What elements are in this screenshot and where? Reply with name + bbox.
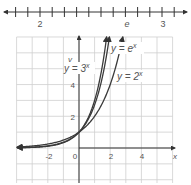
number-line: 2 e 3 [4,7,187,29]
x-tick-label-2: 2 [109,152,114,161]
x-tick-label-4: 4 [140,152,145,161]
x-axis-label: x [172,152,178,161]
y-tick-label-4: 4 [71,81,76,90]
number-line-label-3: 3 [160,19,165,29]
figure: 2 e 3 x y -2 0 2 4 2 4 y = ex y = 3x y =… [0,0,191,185]
y-tick-label-2: 2 [71,113,76,122]
curve-label-e: y = ex [110,42,137,54]
x-tick-label-neg2: -2 [45,152,53,161]
curve-label-3: y = 3x [63,62,90,74]
graph: x y -2 0 2 4 2 4 y = ex y = 3x y = 2x [17,36,178,183]
curve-3x [17,37,106,148]
number-line-label-e: e [124,19,129,29]
number-line-label-2: 2 [37,19,42,29]
curves [17,37,122,148]
grid [17,37,173,183]
curve-label-2: y = 2x [116,70,143,82]
x-tick-label-0: 0 [73,152,78,161]
